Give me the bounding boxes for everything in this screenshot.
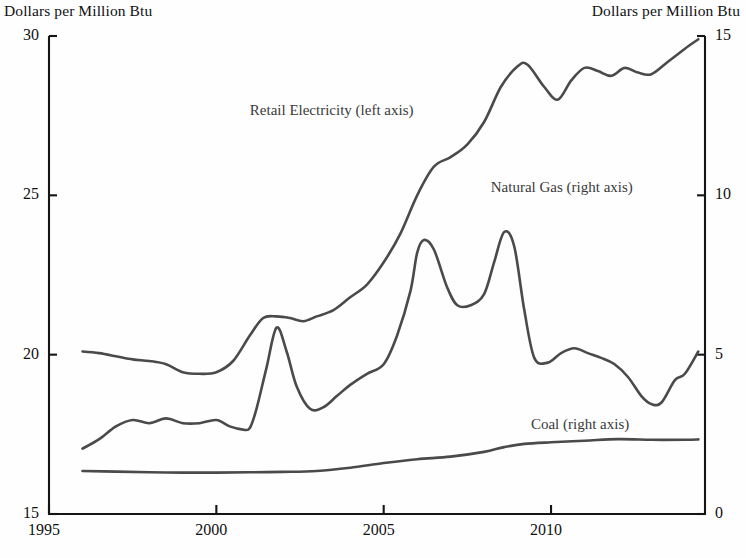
right-axis-tick-label: 15	[715, 26, 731, 44]
right-axis-tick-label: 0	[715, 504, 723, 522]
series-label-coal: Coal (right axis)	[531, 416, 629, 433]
x-axis-tick-label: 2010	[530, 521, 562, 539]
x-axis-tick-label: 2005	[363, 521, 395, 539]
series-label-natural: Natural Gas (right axis)	[491, 179, 633, 196]
left-axis-tick-label: 30	[23, 26, 39, 44]
left-axis-tick-label: 15	[23, 504, 39, 522]
left-axis-tick-label: 20	[23, 345, 39, 363]
left-axis-tick-label: 25	[23, 185, 39, 203]
chart-canvas	[0, 0, 746, 558]
chart-figure: Dollars per Million Btu Dollars per Mill…	[0, 0, 746, 558]
x-axis-tick-label: 2000	[195, 521, 227, 539]
x-axis-tick-label: 1995	[28, 521, 60, 539]
right-axis-tick-label: 10	[715, 185, 731, 203]
right-axis-tick-label: 5	[715, 345, 723, 363]
series-line-coal	[83, 439, 699, 473]
series-label-retail: Retail Electricity (left axis)	[250, 102, 414, 119]
series-line-retail	[83, 39, 699, 374]
